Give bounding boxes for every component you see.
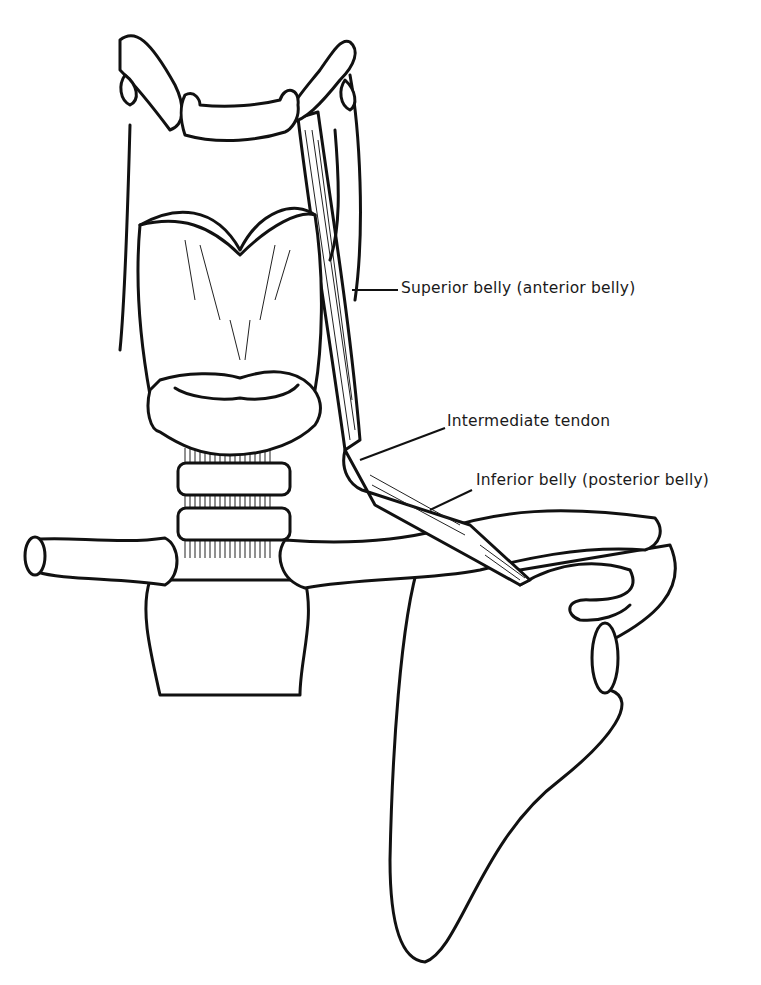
thyrohyoid-left (120, 125, 130, 350)
anatomy-drawing (0, 0, 761, 985)
cricoid-cartilage (148, 372, 320, 455)
label-intermediate-tendon: Intermediate tendon (447, 412, 610, 430)
leader-intermediate-tendon (360, 428, 445, 460)
label-inferior-belly: Inferior belly (posterior belly) (476, 471, 709, 489)
clavicle-left (30, 538, 177, 585)
thyroid-cartilage (138, 214, 321, 395)
omohyoid-diagram: Superior belly (anterior belly) Intermed… (0, 0, 761, 985)
leader-inferior-belly (430, 490, 472, 510)
scapula (390, 545, 675, 962)
hyoid-body (181, 90, 298, 140)
label-superior-belly: Superior belly (anterior belly) (401, 279, 635, 297)
sternum (146, 580, 309, 695)
clavicle-left-end (25, 537, 45, 575)
glenoid (592, 623, 618, 693)
tracheal-ring-1 (178, 463, 290, 495)
tracheal-ring-2 (178, 508, 290, 540)
